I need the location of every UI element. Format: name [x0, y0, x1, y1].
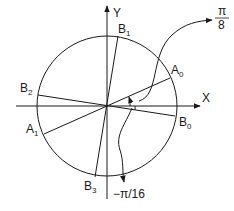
diagram-svg: X Y B1 A0 B2 B0 A1 B3 π 8 −π/16 — [0, 0, 234, 211]
point-label-b1: B1 — [118, 22, 131, 38]
angle-arc-pi-8 — [129, 97, 130, 106]
y-axis-label: Y — [113, 6, 121, 20]
angle-label-pi-denominator: 8 — [218, 18, 225, 32]
point-label-b3: B3 — [84, 179, 97, 195]
point-label-a0: A0 — [171, 63, 184, 79]
callout-arrow-pi-8 — [139, 20, 212, 101]
rotated-axes-circle-diagram: X Y B1 A0 B2 B0 A1 B3 π 8 −π/16 — [0, 0, 234, 211]
point-label-b2: B2 — [20, 81, 33, 97]
angle-label-minus-pi-16: −π/16 — [113, 187, 145, 201]
point-label-a1: A1 — [26, 122, 39, 138]
callout-arrow-minus-pi-16 — [119, 108, 132, 182]
point-label-b0: B0 — [179, 115, 192, 131]
angle-label-pi-numerator: π — [218, 4, 226, 18]
x-axis-label: X — [202, 91, 210, 105]
